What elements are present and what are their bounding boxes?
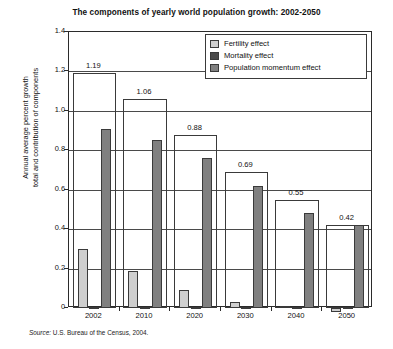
y-tick-label: 0.4 bbox=[25, 224, 65, 231]
bar-total-value-label: 0.55 bbox=[273, 188, 319, 197]
bar-mortality bbox=[191, 307, 201, 309]
bar-total-value-label: 1.06 bbox=[121, 87, 167, 96]
x-tick-mark bbox=[119, 307, 120, 311]
legend-label-fertility: Fertility effect bbox=[224, 40, 269, 48]
chart-legend: Fertility effect Mortality effect Popula… bbox=[205, 34, 367, 79]
chart-title: The components of yearly world populatio… bbox=[0, 8, 393, 17]
bar-total-value-label: 0.42 bbox=[324, 213, 370, 222]
y-tick-label: 0.6 bbox=[25, 185, 65, 192]
source-label: Source: bbox=[29, 329, 51, 336]
x-tick-mark bbox=[220, 307, 221, 311]
legend-label-momentum: Population momentum effect bbox=[224, 64, 321, 72]
bar-mortality bbox=[292, 307, 302, 309]
bar-fertility bbox=[78, 249, 88, 308]
bar-momentum bbox=[152, 140, 162, 308]
momentum-swatch-icon bbox=[210, 64, 219, 72]
y-axis-title-line1: Annual average percent growth bbox=[21, 76, 30, 179]
y-tick-label: 0.8 bbox=[25, 145, 65, 152]
x-tick-mark bbox=[169, 307, 170, 311]
bar-total-value-label: 0.69 bbox=[222, 160, 268, 169]
legend-item-momentum: Population momentum effect bbox=[210, 62, 362, 73]
mortality-swatch-icon bbox=[210, 52, 219, 60]
population-growth-chart: The components of yearly world populatio… bbox=[0, 0, 393, 349]
bar-fertility bbox=[230, 302, 240, 308]
bar-total-value-label: 1.19 bbox=[70, 61, 116, 70]
bar-momentum bbox=[101, 129, 111, 308]
legend-item-mortality: Mortality effect bbox=[210, 50, 362, 61]
y-tick-mark bbox=[64, 307, 68, 308]
bar-total-value-label: 0.88 bbox=[172, 123, 218, 132]
y-tick-label: 1.2 bbox=[25, 66, 65, 73]
y-tick-label: 0 bbox=[25, 303, 65, 310]
bar-momentum bbox=[253, 186, 263, 308]
bar-mortality bbox=[241, 307, 251, 309]
bar-momentum bbox=[202, 158, 212, 308]
bar-momentum bbox=[354, 225, 364, 308]
y-axis-title-line2: total and contribution of components bbox=[30, 68, 39, 187]
y-tick-label: 0.2 bbox=[25, 264, 65, 271]
y-tick-label: 1.4 bbox=[25, 27, 65, 34]
source-text: U.S. Bureau of the Census, 2004. bbox=[51, 329, 148, 336]
x-tick-label: 2030 bbox=[223, 311, 267, 320]
legend-label-mortality: Mortality effect bbox=[224, 52, 273, 60]
x-tick-label: 2020 bbox=[173, 311, 217, 320]
y-tick-label: 1.0 bbox=[25, 106, 65, 113]
bar-mortality bbox=[89, 307, 99, 309]
source-note: Source: U.S. Bureau of the Census, 2004. bbox=[29, 329, 148, 336]
bar-mortality bbox=[140, 307, 150, 309]
bar-fertility bbox=[280, 306, 290, 308]
bar-mortality bbox=[343, 307, 353, 309]
bar-fertility bbox=[179, 290, 189, 308]
x-tick-label: 2010 bbox=[122, 311, 166, 320]
x-tick-label: 2002 bbox=[71, 311, 115, 320]
x-tick-mark bbox=[271, 307, 272, 311]
bar-fertility bbox=[128, 271, 138, 308]
legend-item-fertility: Fertility effect bbox=[210, 38, 362, 49]
x-tick-mark bbox=[321, 307, 322, 311]
bar-fertility bbox=[331, 308, 341, 312]
bar-momentum bbox=[304, 213, 314, 308]
x-tick-label: 2050 bbox=[325, 311, 369, 320]
y-axis-title: Annual average percent growth total and … bbox=[21, 28, 40, 228]
x-tick-label: 2040 bbox=[274, 311, 318, 320]
fertility-swatch-icon bbox=[210, 40, 219, 48]
